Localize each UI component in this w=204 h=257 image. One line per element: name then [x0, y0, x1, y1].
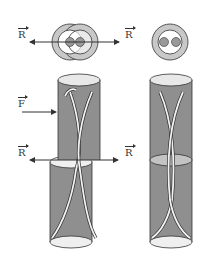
label-r-top-right: R [125, 30, 133, 40]
label-r-mid-right: R [125, 148, 133, 158]
right-cylinder [150, 74, 192, 248]
label-r-mid-left: R [18, 148, 26, 158]
diagram-canvas [0, 0, 204, 257]
top-view-right-ring [152, 24, 188, 60]
label-f: F [18, 99, 25, 109]
label-r-top-left: R [18, 30, 26, 40]
